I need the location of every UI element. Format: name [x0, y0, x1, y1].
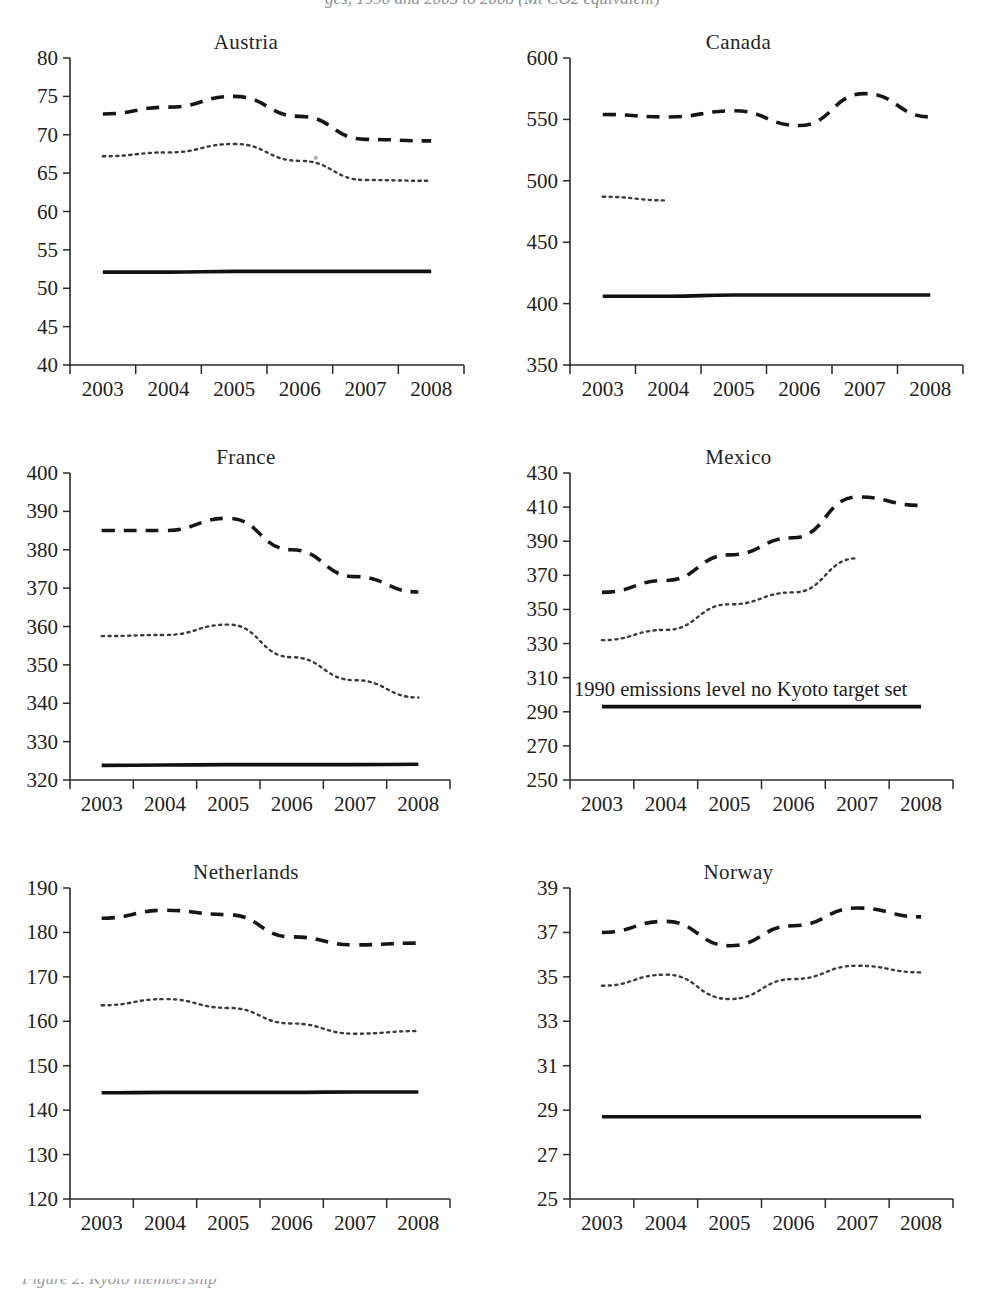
x-tick-label: 2006 [279, 377, 321, 401]
x-tick-label: 2005 [207, 1211, 249, 1235]
y-tick-label: 130 [27, 1143, 59, 1167]
x-tick-label: 2004 [144, 1211, 187, 1235]
x-tick-label: 2008 [909, 377, 951, 401]
y-tick-label: 320 [27, 768, 59, 792]
axis-lines [70, 473, 450, 780]
y-tick-label: 25 [537, 1187, 558, 1211]
chart-panel-mexico: Mexico2502702903103303503703904104302003… [492, 427, 985, 842]
x-tick-label: 2003 [581, 792, 623, 816]
x-tick-label: 2007 [844, 377, 886, 401]
chart-panel-canada: Canada3504004505005506002003200420052006… [492, 12, 985, 427]
series-solid [102, 1092, 419, 1093]
chart-plot: 1201301401501601701801902003200420052006… [0, 842, 492, 1279]
x-tick-label: 2004 [647, 377, 690, 401]
x-tick-label: 2005 [709, 1211, 751, 1235]
axis-lines [570, 58, 963, 365]
x-tick-label: 2006 [778, 377, 820, 401]
figure-header-text: ges, 1990 and 2003 to 2008 (Mt CO2 equiv… [0, 0, 985, 9]
y-tick-label: 350 [527, 353, 559, 377]
chart-title: Canada [492, 30, 985, 55]
axis-lines [570, 888, 953, 1199]
series-dotted [602, 558, 857, 640]
x-tick-label: 2006 [271, 792, 313, 816]
series-dotted [102, 999, 419, 1034]
y-tick-label: 330 [527, 632, 559, 656]
x-tick-label: 2006 [271, 1211, 313, 1235]
y-tick-label: 370 [527, 563, 559, 587]
axis-lines [70, 58, 464, 365]
y-tick-label: 330 [27, 730, 59, 754]
chart-plot: 4045505560657075802003200420052006200720… [0, 12, 492, 427]
series-dashed [602, 497, 921, 593]
chart-plot: 3504004505005506002003200420052006200720… [492, 12, 985, 427]
y-tick-label: 29 [537, 1098, 558, 1122]
series-solid [103, 271, 431, 272]
x-tick-label: 2003 [81, 1211, 123, 1235]
series-dotted [102, 625, 419, 698]
y-tick-label: 250 [527, 768, 559, 792]
y-tick-label: 270 [527, 734, 559, 758]
y-tick-label: 120 [27, 1187, 59, 1211]
series-dashed [102, 518, 419, 592]
y-tick-label: 55 [37, 238, 58, 262]
series-dashed [103, 96, 431, 141]
x-tick-label: 2003 [581, 1211, 623, 1235]
y-tick-label: 45 [37, 315, 58, 339]
y-tick-label: 350 [27, 653, 59, 677]
chart-panel-france: France3203303403503603703803904002003200… [0, 427, 492, 842]
x-tick-label: 2005 [213, 377, 255, 401]
x-tick-label: 2007 [836, 1211, 878, 1235]
y-tick-label: 50 [37, 276, 58, 300]
y-tick-label: 65 [37, 161, 58, 185]
series-dotted [602, 966, 921, 999]
y-tick-label: 35 [537, 965, 558, 989]
x-tick-label: 2005 [207, 792, 249, 816]
y-tick-label: 160 [27, 1009, 59, 1033]
series-dashed [602, 908, 921, 946]
chart-panel-austria: Austria404550556065707580200320042005200… [0, 12, 492, 427]
x-tick-label: 2004 [144, 792, 187, 816]
y-tick-label: 400 [527, 292, 559, 316]
y-tick-label: 180 [27, 920, 59, 944]
figure-caption-text: Figure 2. Kyoto membership [22, 1279, 217, 1289]
y-tick-label: 290 [527, 700, 559, 724]
y-tick-label: 350 [527, 597, 559, 621]
y-tick-label: 380 [27, 538, 59, 562]
chart-annotation: 1990 emissions level no Kyoto target set [574, 678, 908, 701]
y-tick-label: 390 [527, 529, 559, 553]
chart-title: Norway [492, 860, 985, 885]
x-tick-label: 2003 [82, 377, 124, 401]
x-tick-label: 2005 [713, 377, 755, 401]
chart-plot: 2527293133353739200320042005200620072008 [492, 842, 985, 1279]
x-tick-label: 2003 [81, 792, 123, 816]
chart-panel-norway: Norway2527293133353739200320042005200620… [492, 842, 985, 1279]
series-dashed [102, 910, 419, 945]
x-tick-label: 2008 [410, 377, 452, 401]
chart-title: Austria [0, 30, 550, 55]
chart-plot: 2502702903103303503703904104302003200420… [492, 427, 985, 842]
axis-lines [570, 473, 953, 780]
x-tick-label: 2007 [836, 792, 878, 816]
x-tick-label: 2005 [709, 792, 751, 816]
y-tick-label: 340 [27, 691, 59, 715]
y-tick-label: 60 [37, 200, 58, 224]
y-tick-label: 550 [527, 107, 559, 131]
y-tick-label: 170 [27, 965, 59, 989]
x-tick-label: 2008 [397, 1211, 439, 1235]
axis-lines [70, 888, 450, 1199]
x-tick-label: 2007 [334, 1211, 376, 1235]
figure-header-cutoff: ges, 1990 and 2003 to 2008 (Mt CO2 equiv… [0, 0, 985, 12]
figure-root: ges, 1990 and 2003 to 2008 (Mt CO2 equiv… [0, 0, 985, 1291]
y-tick-label: 150 [27, 1054, 59, 1078]
series-dashed [603, 94, 931, 126]
y-tick-label: 40 [37, 353, 58, 377]
panel-grid: Austria404550556065707580200320042005200… [0, 12, 985, 1279]
chart-plot: 3203303403503603703803904002003200420052… [0, 427, 492, 842]
x-tick-label: 2007 [334, 792, 376, 816]
x-tick-label: 2004 [148, 377, 191, 401]
chart-title: Mexico [492, 445, 985, 470]
figure-caption-cutoff: Figure 2. Kyoto membership [0, 1279, 985, 1291]
y-tick-label: 31 [537, 1054, 558, 1078]
y-tick-label: 450 [527, 230, 559, 254]
y-tick-label: 75 [37, 84, 58, 108]
